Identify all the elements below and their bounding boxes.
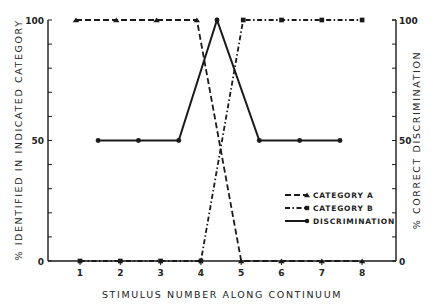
x-tick-label: 2 bbox=[117, 268, 123, 278]
legend-item: CATEGORY A bbox=[285, 191, 374, 200]
circle-marker-icon bbox=[176, 138, 181, 143]
y-tick-label-right: 100 bbox=[399, 16, 418, 26]
legend: CATEGORY ACATEGORY BDISCRIMINATION bbox=[285, 191, 395, 226]
series-line bbox=[98, 20, 340, 141]
x-tick-label: 6 bbox=[278, 268, 284, 278]
x-tick-label: 4 bbox=[198, 268, 204, 278]
circle-marker-icon bbox=[215, 18, 220, 23]
y-axis-left-title: % IDENTIFIED IN INDICATED CATEGORY bbox=[13, 19, 24, 260]
legend-label: CATEGORY A bbox=[313, 191, 374, 200]
square-marker-icon bbox=[279, 18, 284, 23]
circle-marker-icon bbox=[337, 138, 342, 143]
y-tick-label-left: 0 bbox=[38, 257, 44, 267]
square-marker-icon bbox=[199, 259, 204, 264]
x-tick-label: 7 bbox=[319, 268, 325, 278]
square-marker-icon bbox=[78, 259, 83, 264]
legend-item: CATEGORY B bbox=[285, 204, 374, 213]
y-axis-right-title: % CORRECT DISCRIMINATION bbox=[411, 51, 422, 229]
x-tick-label: 3 bbox=[157, 268, 163, 278]
circle-marker-icon bbox=[136, 138, 141, 143]
square-marker-icon bbox=[241, 18, 246, 23]
series-discrimination bbox=[96, 18, 343, 143]
x-axis-title: STIMULUS NUMBER ALONG CONTINUUM bbox=[102, 289, 342, 300]
x-tick-label: 5 bbox=[238, 268, 244, 278]
circle-marker-icon bbox=[96, 138, 101, 143]
x-tick-label: 8 bbox=[359, 268, 365, 278]
circle-marker-icon bbox=[257, 138, 262, 143]
x-tick-label: 1 bbox=[77, 268, 83, 278]
square-marker-icon bbox=[118, 259, 123, 264]
square-marker-icon bbox=[305, 206, 309, 210]
square-marker-icon bbox=[158, 259, 163, 264]
series-group bbox=[73, 17, 366, 263]
axes: 00505010010012345678 bbox=[25, 16, 418, 279]
circle-marker-icon bbox=[297, 138, 302, 143]
legend-label: DISCRIMINATION bbox=[313, 217, 395, 226]
y-tick-label-right: 0 bbox=[399, 257, 405, 267]
y-tick-label-left: 100 bbox=[25, 16, 44, 26]
y-tick-label-right: 50 bbox=[399, 136, 412, 146]
circle-marker-icon bbox=[305, 219, 310, 224]
square-marker-icon bbox=[319, 18, 324, 23]
identification-discrimination-chart: 00505010010012345678 CATEGORY ACATEGORY … bbox=[0, 0, 437, 307]
legend-label: CATEGORY B bbox=[313, 204, 374, 213]
square-marker-icon bbox=[360, 18, 365, 23]
legend-item: DISCRIMINATION bbox=[285, 217, 395, 226]
y-tick-label-left: 50 bbox=[31, 136, 44, 146]
